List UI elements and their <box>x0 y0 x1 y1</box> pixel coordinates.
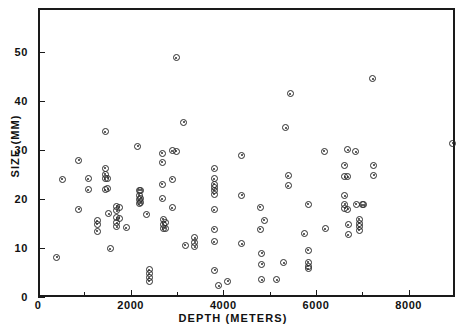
data-point <box>104 185 111 192</box>
data-point <box>282 124 289 131</box>
data-point <box>345 221 352 228</box>
scatter-plot-figure: 0200040006000800001020304050 DEPTH (METE… <box>0 0 466 332</box>
x-tick-major <box>131 290 132 297</box>
data-point <box>360 201 367 208</box>
data-point <box>211 267 218 274</box>
data-point <box>258 276 265 283</box>
plot-data-area <box>38 8 455 297</box>
y-tick-major <box>38 199 45 200</box>
data-point <box>305 247 312 254</box>
data-point <box>238 240 245 247</box>
data-point <box>211 226 218 233</box>
data-point <box>258 261 265 268</box>
data-point <box>257 204 264 211</box>
x-tick-label: 2000 <box>117 299 144 311</box>
y-tick-label: 0 <box>0 291 28 303</box>
x-tick-label: 4000 <box>210 299 237 311</box>
data-point <box>134 143 141 150</box>
data-point <box>211 238 218 245</box>
data-point <box>105 210 112 217</box>
data-point <box>113 223 120 230</box>
x-tick-major <box>223 290 224 297</box>
x-tick-label: 6000 <box>303 299 330 311</box>
data-point <box>211 165 218 172</box>
y-tick-major <box>38 248 45 249</box>
y-tick-major <box>38 101 45 102</box>
data-point <box>305 201 312 208</box>
data-point <box>211 206 218 213</box>
data-point <box>301 230 308 237</box>
data-point <box>162 225 169 232</box>
data-point <box>143 211 150 218</box>
data-point <box>370 172 377 179</box>
x-tick-minor <box>270 292 271 297</box>
data-point <box>173 148 180 155</box>
data-point <box>344 173 351 180</box>
data-point <box>159 195 166 202</box>
data-point <box>261 217 268 224</box>
data-point <box>85 186 92 193</box>
data-point <box>146 278 153 285</box>
data-point <box>75 206 82 213</box>
data-point <box>75 157 82 164</box>
data-point <box>344 146 351 153</box>
data-point <box>182 242 189 249</box>
data-point <box>137 187 144 194</box>
data-point <box>370 162 377 169</box>
data-point <box>345 231 352 238</box>
data-point <box>369 75 376 82</box>
data-point <box>137 199 144 206</box>
data-point <box>94 221 101 228</box>
data-point <box>94 228 101 235</box>
y-tick-major <box>38 297 45 298</box>
data-point <box>169 176 176 183</box>
data-point <box>173 54 180 61</box>
data-point <box>257 226 264 233</box>
x-tick-minor <box>362 292 363 297</box>
data-point <box>159 181 166 188</box>
data-point <box>215 282 222 289</box>
data-point <box>159 159 166 166</box>
data-point <box>321 148 328 155</box>
data-point <box>211 191 218 198</box>
data-point <box>107 245 114 252</box>
data-point <box>344 206 351 213</box>
data-point <box>191 243 198 250</box>
x-axis-title: DEPTH (METERS) <box>0 312 466 324</box>
x-tick-major <box>38 290 39 297</box>
data-point <box>356 227 363 234</box>
data-point <box>341 162 348 169</box>
data-point <box>273 276 280 283</box>
data-point <box>102 128 109 135</box>
data-point <box>224 278 231 285</box>
data-point <box>238 192 245 199</box>
x-tick-label: 8000 <box>395 299 422 311</box>
data-point <box>258 250 265 257</box>
y-tick-major <box>38 52 45 53</box>
y-tick-major <box>38 150 45 151</box>
data-point <box>285 172 292 179</box>
data-point <box>116 204 123 211</box>
data-point <box>104 175 111 182</box>
data-point <box>280 259 287 266</box>
data-point <box>180 119 187 126</box>
data-point <box>449 140 456 147</box>
data-point <box>59 176 66 183</box>
data-point <box>322 225 329 232</box>
data-point <box>53 254 60 261</box>
data-point <box>352 148 359 155</box>
y-tick-label: 10 <box>0 242 28 254</box>
x-tick-minor <box>177 292 178 297</box>
y-axis-title: SIZE (MM) <box>9 86 21 206</box>
data-point <box>305 265 312 272</box>
data-point <box>159 150 166 157</box>
y-tick-label: 50 <box>0 46 28 58</box>
data-point <box>169 204 176 211</box>
data-point <box>287 90 294 97</box>
data-point <box>123 224 130 231</box>
data-point <box>116 215 123 222</box>
x-tick-major <box>316 290 317 297</box>
data-point <box>85 175 92 182</box>
data-point <box>285 182 292 189</box>
data-point <box>341 192 348 199</box>
